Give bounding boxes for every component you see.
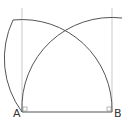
- label-b: B: [114, 107, 122, 120]
- arc-centered-b-upper: [13, 20, 112, 112]
- label-a: A: [13, 107, 21, 120]
- right-angle-a: [23, 107, 27, 111]
- arc-centered-a: [22, 17, 122, 112]
- construction-diagram: A B: [0, 0, 131, 125]
- right-angle-b: [107, 107, 111, 111]
- arc-centered-b: [4, 20, 22, 112]
